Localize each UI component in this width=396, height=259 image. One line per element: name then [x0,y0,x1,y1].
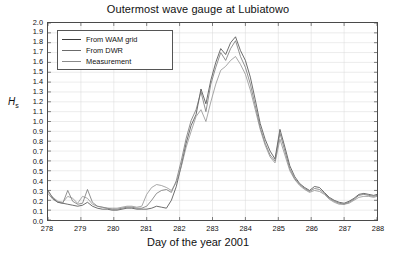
legend-line-icon [62,61,81,62]
chart-legend: From WAM gridFrom DWRMeasurement [57,30,173,70]
y-tick-label: 0.2 [13,198,43,205]
x-tick-label: 279 [65,225,95,233]
y-tick-label: 0.4 [13,178,43,185]
y-tick-label: 1.6 [13,58,43,65]
x-tick-label: 283 [198,225,228,233]
chart-figure: Outermost wave gauge at Lubiatowo Hs Day… [0,0,396,259]
y-tick-label: 0.3 [13,188,43,195]
x-tick-label: 280 [98,225,128,233]
y-tick-label: 1.9 [13,28,43,35]
y-tick-label: 1.3 [13,88,43,95]
legend-label: From WAM grid [86,35,137,44]
y-tick-label: 1.0 [13,118,43,125]
legend-line-icon [62,39,81,40]
x-tick-label: 281 [131,225,161,233]
y-tick-label: 0.7 [13,148,43,155]
x-tick-label: 286 [297,225,327,233]
y-tick-label: 0.8 [13,138,43,145]
legend-measurement: Measurement [58,56,172,67]
legend-label: Measurement [86,57,131,66]
y-tick-label: 1.5 [13,68,43,75]
legend-label: From DWR [86,46,123,55]
y-tick-label: 0.1 [13,208,43,215]
y-tick-label: 2.0 [13,19,43,26]
y-tick-label: 1.2 [13,98,43,105]
x-axis-title: Day of the year 2001 [0,236,396,248]
y-tick-label: 1.8 [13,38,43,45]
y-tick-label: 0.6 [13,158,43,165]
x-tick-label: 285 [264,225,294,233]
x-tick-label: 287 [330,225,360,233]
y-tick-label: 0.9 [13,128,43,135]
y-tick-label: 1.1 [13,108,43,115]
y-tick-label: 0.5 [13,168,43,175]
legend-dwr: From DWR [58,45,172,56]
chart-title: Outermost wave gauge at Lubiatowo [0,3,396,15]
y-tick-label: 1.4 [13,78,43,85]
legend-line-icon [62,50,81,51]
x-tick-label: 282 [164,225,194,233]
x-tick-label: 288 [363,225,393,233]
legend-wam-grid: From WAM grid [58,34,172,45]
y-tick-label: 0.0 [13,218,43,225]
x-tick-label: 278 [32,225,62,233]
x-tick-label: 284 [231,225,261,233]
y-tick-label: 1.7 [13,48,43,55]
